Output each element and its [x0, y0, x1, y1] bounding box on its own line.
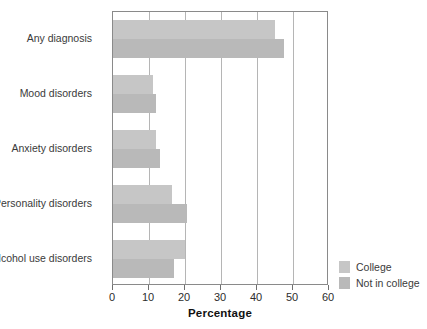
bar-group — [113, 20, 327, 58]
plot-area — [112, 11, 328, 285]
legend-swatch-not-in-college — [339, 277, 350, 289]
x-tick-label: 0 — [92, 291, 132, 303]
x-tick-60 — [328, 285, 329, 290]
legend-swatch-college — [339, 261, 350, 273]
bar-chart: Any diagnosisMood disordersAnxiety disor… — [0, 0, 427, 329]
bar-not-in-college — [113, 204, 187, 223]
bar-college — [113, 20, 275, 39]
x-tick-label: 50 — [272, 291, 312, 303]
x-tick-label: 30 — [200, 291, 240, 303]
x-tick-label: 60 — [308, 291, 348, 303]
bar-college — [113, 240, 185, 259]
bar-not-in-college — [113, 94, 156, 113]
bar-not-in-college — [113, 39, 284, 58]
x-tick-10 — [148, 285, 149, 290]
legend-item-not-in-college: Not in college — [339, 275, 420, 291]
y-axis-label: Alcohol use disorders — [0, 252, 92, 264]
x-tick-label: 40 — [236, 291, 276, 303]
bar-group — [113, 185, 327, 223]
bar-college — [113, 75, 153, 94]
y-axis-label: Mood disorders — [0, 87, 92, 99]
bar-not-in-college — [113, 149, 160, 168]
bar-college — [113, 130, 156, 149]
x-tick-0 — [112, 285, 113, 290]
x-tick-50 — [292, 285, 293, 290]
legend-item-college: College — [339, 259, 420, 275]
x-tick-30 — [220, 285, 221, 290]
bar-group — [113, 130, 327, 168]
legend: College Not in college — [339, 259, 420, 291]
x-tick-40 — [256, 285, 257, 290]
y-axis-label: Anxiety disorders — [0, 142, 92, 154]
x-tick-label: 20 — [164, 291, 204, 303]
x-axis-title: Percentage — [112, 307, 328, 319]
x-tick-label: 10 — [128, 291, 168, 303]
legend-label-not-in-college: Not in college — [356, 277, 420, 289]
legend-label-college: College — [356, 261, 392, 273]
y-axis-label: Personality disorders — [0, 197, 92, 209]
bar-not-in-college — [113, 259, 174, 278]
x-tick-20 — [184, 285, 185, 290]
bar-college — [113, 185, 172, 204]
bar-group — [113, 240, 327, 278]
bar-group — [113, 75, 327, 113]
y-axis-label: Any diagnosis — [0, 32, 92, 44]
